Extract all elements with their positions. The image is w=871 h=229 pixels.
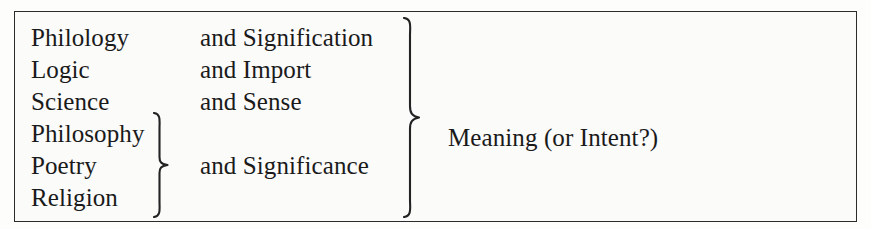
pairing-sense: and Sense [200,89,302,114]
term-poetry: Poetry [31,153,97,178]
term-logic: Logic [31,57,90,82]
pairing-import: and Import [200,57,311,82]
inner-right-curly-brace-icon [150,112,172,218]
outer-right-curly-brace-icon [400,17,424,218]
term-philosophy: Philosophy [31,121,145,146]
pairing-signification: and Signification [200,25,373,50]
term-philology: Philology [31,25,129,50]
term-science: Science [31,89,109,114]
semantics-diagram: Philology Logic Science Philosophy Poetr… [0,0,871,229]
term-religion: Religion [31,185,118,210]
result-label: Meaning (or Intent?) [448,125,658,150]
pairing-significance: and Significance [200,153,369,178]
figure-border [14,11,857,222]
